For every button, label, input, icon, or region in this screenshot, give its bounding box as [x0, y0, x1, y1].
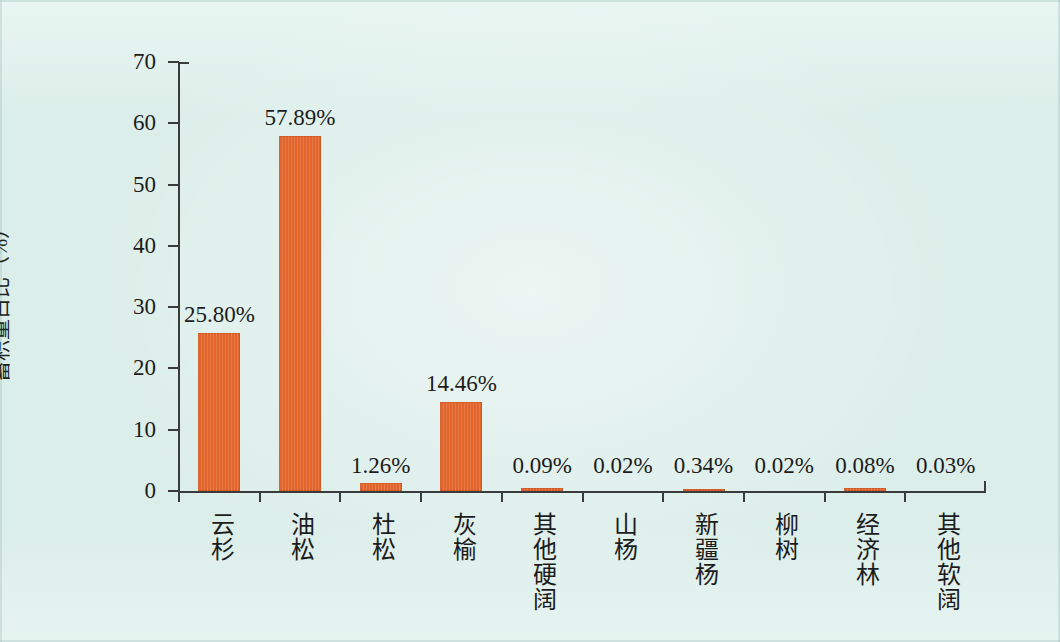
x-axis-tick-mark [259, 491, 261, 502]
y-axis-tick-label: 10 [108, 418, 156, 441]
x-axis-tick-mark [178, 491, 180, 502]
x-axis-tick-mark [904, 491, 906, 502]
y-axis-tick-mark [168, 245, 179, 247]
bar-value-label: 1.26% [311, 454, 451, 477]
y-axis-top-cap [178, 62, 189, 64]
x-axis-tick-mark [824, 491, 826, 502]
y-axis-tick-label: 50 [108, 173, 156, 196]
y-axis-tick-label: 0 [108, 479, 156, 502]
bar [683, 489, 725, 491]
bar [360, 483, 402, 491]
y-axis-tick-label: 40 [108, 234, 156, 257]
x-axis-category-label: 新疆杨 [688, 512, 720, 632]
y-axis-tick-label: 20 [108, 356, 156, 379]
x-axis-category-label: 柳树 [768, 512, 800, 632]
y-axis-tick-mark [168, 122, 179, 124]
x-axis-tick-mark [743, 491, 745, 502]
x-axis-tick-mark [501, 491, 503, 502]
x-axis-tick-mark [420, 491, 422, 502]
x-axis-end-cap [984, 481, 986, 493]
x-axis-category-label: 云杉 [203, 512, 235, 632]
x-axis-tick-mark [339, 491, 341, 502]
bar-chart: 蓄积量占比（%） 010203040506070 25.80%57.89%1.2… [0, 0, 1060, 642]
bar-value-label: 14.46% [391, 372, 531, 395]
bar [844, 488, 886, 491]
x-axis-category-label: 经济林 [849, 512, 881, 632]
x-axis-category-label: 杜松 [365, 512, 397, 632]
y-axis-tick-mark [168, 367, 179, 369]
bar-value-label: 0.03% [876, 454, 1016, 477]
bar [198, 333, 240, 491]
y-axis-tick-label: 70 [108, 50, 156, 73]
x-axis-category-label: 其他硬阔 [526, 512, 558, 632]
y-axis-title: 蓄积量占比（%） [0, 195, 14, 405]
bar [521, 488, 563, 491]
bar-value-label: 25.80% [149, 303, 289, 326]
y-axis-tick-mark [168, 61, 179, 63]
bar-value-label: 57.89% [230, 106, 370, 129]
y-axis-tick-mark [168, 184, 179, 186]
y-axis-tick-mark [168, 429, 179, 431]
x-axis-category-label: 灰榆 [445, 512, 477, 632]
x-axis-category-label: 山杨 [607, 512, 639, 632]
x-axis-tick-mark [662, 491, 664, 502]
x-axis-category-label: 其他软阔 [930, 512, 962, 632]
x-axis-category-label: 油松 [284, 512, 316, 632]
y-axis-tick-label: 60 [108, 111, 156, 134]
x-axis-tick-mark [582, 491, 584, 502]
bar [440, 402, 482, 491]
